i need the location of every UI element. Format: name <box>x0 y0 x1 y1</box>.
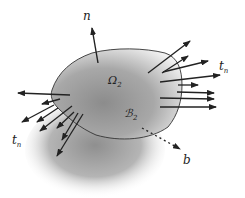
normal-label: n <box>83 9 91 23</box>
continuum-body-diagram: n tn tn Ω2 ℬ2 b <box>0 0 245 198</box>
traction-label-right: tn <box>219 59 229 75</box>
traction-label-left: tn <box>12 133 22 149</box>
body-force-label: b <box>183 153 191 167</box>
